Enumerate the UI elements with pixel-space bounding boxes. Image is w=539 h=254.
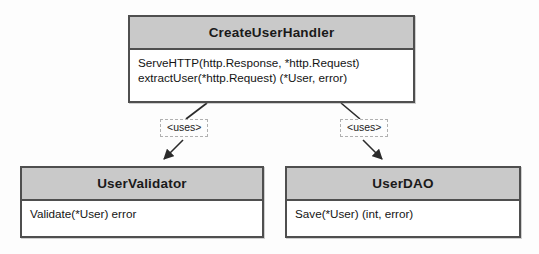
class-name-user-validator: UserValidator <box>22 168 262 201</box>
method-extract-user: extractUser(*http.Request) (*User, error… <box>138 70 405 85</box>
uml-class-create-user-handler[interactable]: CreateUserHandler ServeHTTP(http.Respons… <box>128 15 415 103</box>
edge-label-uses-dao: <uses> <box>340 119 388 137</box>
method-compartment-create-user-handler: ServeHTTP(http.Response, *http.Request) … <box>130 50 413 101</box>
method-compartment-user-dao: Save(*User) (int, error) <box>287 201 519 236</box>
uml-class-user-dao[interactable]: UserDAO Save(*User) (int, error) <box>285 166 521 238</box>
class-name-user-dao: UserDAO <box>287 168 519 201</box>
uml-diagram-canvas: CreateUserHandler ServeHTTP(http.Respons… <box>0 0 539 254</box>
method-validate: Validate(*User) error <box>30 206 254 221</box>
class-name-create-user-handler: CreateUserHandler <box>130 17 413 50</box>
edge-label-uses-validator: <uses> <box>160 119 208 137</box>
method-save: Save(*User) (int, error) <box>295 206 511 221</box>
method-serve-http: ServeHTTP(http.Response, *http.Request) <box>138 55 405 70</box>
uml-class-user-validator[interactable]: UserValidator Validate(*User) error <box>20 166 264 238</box>
method-compartment-user-validator: Validate(*User) error <box>22 201 262 236</box>
